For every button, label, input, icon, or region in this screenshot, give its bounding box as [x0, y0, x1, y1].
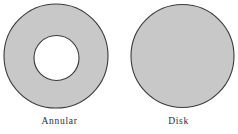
disk-circle [131, 5, 234, 108]
caption-disk: Disk [119, 117, 238, 127]
shape-panel-disk: Disk [119, 0, 238, 134]
figure-canvas: Annular Disk [0, 0, 238, 134]
annular-shape [0, 0, 119, 134]
shape-panel-annular: Annular [0, 0, 119, 134]
caption-annular: Annular [0, 117, 119, 127]
disk-shape [119, 0, 238, 134]
annulus-inner-circle [34, 36, 79, 81]
